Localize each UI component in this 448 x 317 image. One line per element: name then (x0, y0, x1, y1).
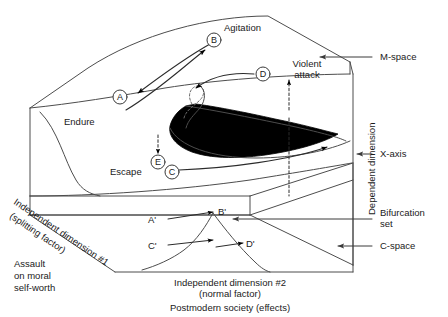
marker-label-a: A (117, 92, 123, 102)
marker-label-c: C (169, 167, 176, 177)
label-independent-dimension-2-line2: (normal factor) (140, 288, 320, 299)
label-assault-line3: self-worth (14, 282, 55, 293)
label-assault-line1: Assault (14, 258, 45, 269)
bifurcation-cusp-right-branch (213, 213, 270, 272)
label-x-axis: X-axis (380, 148, 406, 159)
label-violent-attack-line1: Violent (283, 58, 331, 69)
label-independent-dimension-2-line1: Independent dimension #2 (140, 277, 320, 288)
c-space-back-diagonal (250, 215, 353, 265)
label-d-prime: D' (246, 238, 255, 249)
label-c-prime: C' (148, 240, 157, 251)
label-m-space: M-space (380, 51, 416, 62)
x-axis-plane-diag-back (250, 163, 353, 196)
label-violent-attack-line2: attack (283, 69, 331, 80)
label-c-space: C-space (380, 240, 415, 251)
label-a-prime: A' (148, 214, 156, 225)
label-assault-line2: on moral (14, 270, 51, 281)
arrow-path-b (126, 50, 205, 110)
marker-label-d: D (260, 69, 267, 79)
label-endure: Endure (64, 116, 95, 127)
x-axis-plane-diag-front (250, 180, 353, 215)
marker-label-b: B (211, 35, 217, 45)
label-agitation: Agitation (224, 22, 261, 33)
label-escape: Escape (110, 166, 142, 177)
lower-sheet-front-edge (30, 163, 352, 196)
label-bifurcation-set-line1: Bifurcation (380, 207, 425, 218)
label-dependent-dimension: Dependent dimension (366, 123, 377, 215)
label-bottom-caption: Postmodern society (effects) (130, 302, 330, 313)
cusp-catastrophe-diagram: A B C D E Agitation Violent attack Endur… (0, 0, 448, 317)
marker-label-e: E (155, 157, 161, 167)
label-bifurcation-set-line2: set (380, 218, 393, 229)
label-b-prime: B' (218, 206, 226, 217)
